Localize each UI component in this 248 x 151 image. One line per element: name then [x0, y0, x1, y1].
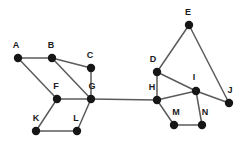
graph-edge-I-N [196, 91, 202, 125]
graph-node-K[interactable] [32, 127, 40, 135]
graph-canvas [0, 0, 248, 151]
graph-edge-D-E [157, 25, 189, 72]
graph-node-G[interactable] [87, 95, 95, 103]
graph-node-J[interactable] [225, 99, 233, 107]
graph-edge-A-F [18, 58, 57, 99]
edge-layer [18, 25, 229, 131]
graph-node-C[interactable] [87, 64, 95, 72]
graph-node-M[interactable] [170, 121, 178, 129]
graph-node-F[interactable] [53, 95, 61, 103]
graph-node-A[interactable] [14, 54, 22, 62]
graph-edge-F-K [36, 99, 57, 131]
graph-node-H[interactable] [153, 96, 161, 104]
graph-edge-B-C [52, 58, 91, 68]
graph-edge-H-M [157, 100, 174, 125]
graph-edge-L-G [77, 99, 91, 131]
graph-node-N[interactable] [198, 121, 206, 129]
graph-node-E[interactable] [185, 21, 193, 29]
graph-node-I[interactable] [192, 87, 200, 95]
graph-edge-H-I [157, 91, 196, 100]
graph-node-B[interactable] [48, 54, 56, 62]
graph-edge-D-I [157, 72, 196, 91]
graph-edge-G-H [91, 99, 157, 100]
graph-edge-B-G [52, 58, 91, 99]
graph-node-L[interactable] [73, 127, 81, 135]
graph-diagram: ABCDEFGHIJKLMN [0, 0, 248, 151]
graph-node-D[interactable] [153, 68, 161, 76]
